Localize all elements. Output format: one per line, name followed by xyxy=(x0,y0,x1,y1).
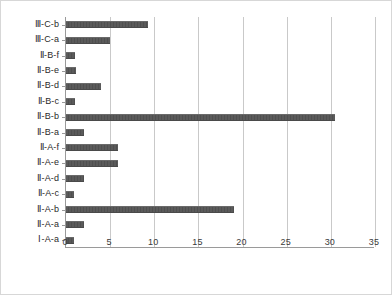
chart-figure: 05101520253035Ⅲ-C-bⅢ-C-aⅡ-B-fⅡ-B-eⅡ-B-dⅡ… xyxy=(0,0,392,295)
y-axis-category-label: Ⅱ-B-e xyxy=(0,65,59,75)
y-axis-category-label: Ⅲ-C-a xyxy=(0,34,59,44)
bar xyxy=(66,175,84,182)
bar xyxy=(66,83,101,90)
bar xyxy=(66,129,84,136)
y-axis-category-label: Ⅱ-A-e xyxy=(0,157,59,167)
y-axis-category-label: Ⅱ-A-d xyxy=(0,173,59,183)
y-axis-category-label: Ⅲ-C-b xyxy=(0,19,59,29)
bar xyxy=(66,160,118,167)
x-axis-tick-label: 5 xyxy=(89,237,129,247)
x-gridline xyxy=(243,17,244,247)
y-axis-category-label: Ⅰ-A-a xyxy=(0,234,59,244)
bar xyxy=(66,221,84,228)
bar xyxy=(66,37,110,44)
x-axis-tick-label: 35 xyxy=(354,237,392,247)
bar xyxy=(66,206,234,213)
x-axis-tick-label: 30 xyxy=(310,237,350,247)
bar xyxy=(66,98,75,105)
x-axis-tick-label: 20 xyxy=(222,237,262,247)
x-axis-tick-label: 10 xyxy=(133,237,173,247)
x-axis-tick-label: 25 xyxy=(266,237,306,247)
y-axis-category-label: Ⅱ-B-a xyxy=(0,127,59,137)
x-gridline xyxy=(375,17,376,247)
x-axis-tick-label: 15 xyxy=(177,237,217,247)
bar xyxy=(66,67,76,74)
y-axis-category-label: Ⅱ-A-b xyxy=(0,204,59,214)
bar xyxy=(66,144,118,151)
y-axis-category-label: Ⅱ-A-a xyxy=(0,219,59,229)
y-axis-category-label: Ⅱ-B-d xyxy=(0,80,59,90)
y-axis-category-label: Ⅱ-A-c xyxy=(0,188,59,198)
bar xyxy=(66,52,75,59)
y-axis-category-label: Ⅱ-B-b xyxy=(0,111,59,121)
x-gridline xyxy=(331,17,332,247)
plot-area xyxy=(65,17,374,248)
bar xyxy=(66,191,74,198)
y-axis-category-label: Ⅱ-B-c xyxy=(0,96,59,106)
x-gridline xyxy=(287,17,288,247)
y-axis-category-label: Ⅱ-B-f xyxy=(0,50,59,60)
y-axis-category-label: Ⅱ-A-f xyxy=(0,142,59,152)
bar xyxy=(66,114,335,121)
bar xyxy=(66,21,148,28)
